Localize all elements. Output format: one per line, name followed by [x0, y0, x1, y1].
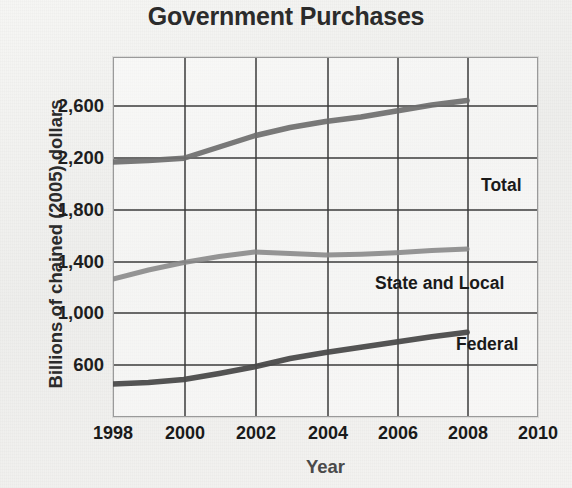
x-tick-2000: 2000 [165, 423, 205, 444]
y-tick-1000: 1,000 [8, 302, 104, 324]
plot-svg [113, 57, 538, 417]
series-lines [113, 101, 467, 385]
plot-border [114, 58, 538, 417]
gridlines-vertical [185, 57, 468, 417]
series-line-total [113, 101, 467, 163]
series-label-federal: Federal [456, 334, 518, 355]
series-label-state-and-local: State and Local [375, 273, 504, 294]
gridlines-horizontal [113, 106, 538, 365]
y-tick-2600: 2,600 [8, 95, 104, 117]
series-line-federal [113, 332, 467, 384]
x-tick-2006: 2006 [378, 423, 418, 444]
y-tick-2200: 2,200 [8, 147, 104, 169]
y-tick-1400: 1,400 [8, 251, 104, 273]
plot-area: Total State and Local Federal [113, 57, 538, 417]
series-label-total: Total [481, 175, 522, 196]
x-tick-1998: 1998 [93, 423, 133, 444]
y-tick-1800: 1,800 [8, 199, 104, 221]
y-axis-tick-labels: 2,600 2,200 1,800 1,400 1,000 600 [8, 0, 104, 488]
x-tick-2002: 2002 [236, 423, 276, 444]
x-tick-2010: 2010 [518, 423, 558, 444]
x-axis-title: Year [113, 456, 538, 478]
x-tick-2004: 2004 [308, 423, 348, 444]
x-tick-2008: 2008 [448, 423, 488, 444]
government-purchases-chart: Government Purchases Billions of chained… [0, 0, 572, 488]
y-tick-600: 600 [8, 354, 104, 376]
